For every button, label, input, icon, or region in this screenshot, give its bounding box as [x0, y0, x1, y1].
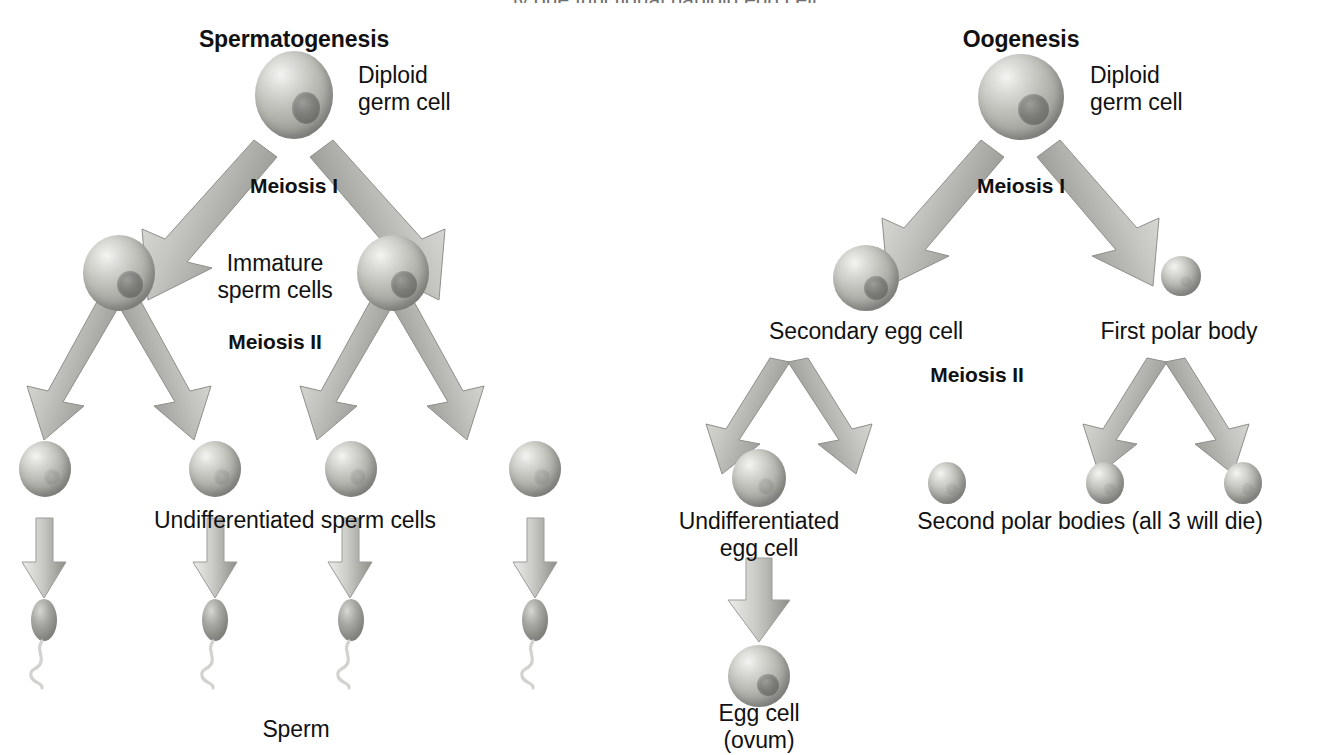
second-polar-body-3 — [1224, 462, 1262, 504]
undifferentiated-sperm-cell-1 — [19, 441, 71, 497]
undifferentiated-egg-cell — [732, 449, 786, 507]
arrow-sperm-differentiate-1 — [22, 518, 66, 598]
egg-cell-label-line1: Egg cell — [718, 700, 799, 726]
arrow-oo-meiosis2-2 — [788, 358, 872, 474]
sperm-cell-1 — [9, 596, 79, 696]
undifferentiated-sperm-cell-4 — [509, 441, 561, 497]
oo-diploid-germ-cell-label-line2: germ cell — [1090, 89, 1182, 115]
arrow-oo-meiosis1-right — [1037, 140, 1159, 286]
sperm-product-label: Sperm — [262, 716, 329, 742]
arrow-sperm-differentiate-4 — [513, 518, 557, 598]
arrow-sperm-meiosis1-left — [142, 140, 277, 300]
sperm-cell-2 — [180, 596, 250, 696]
immature-sperm-cell-left — [83, 235, 155, 311]
immature-sperm-cells-label-line1: Immature — [227, 250, 323, 276]
secondary-egg-cell-label: Secondary egg cell — [769, 318, 963, 344]
first-polar-body — [1161, 256, 1201, 296]
second-polar-body-2 — [1086, 462, 1124, 504]
sperm-meiosis-ii-label: Meiosis II — [228, 330, 322, 354]
egg-cell-label-line2: (ovum) — [724, 727, 795, 753]
undifferentiated-egg-cell-label-line1: Undifferentiated — [679, 508, 839, 534]
cut-off-caption: ...ly one functional haploid egg cell. — [0, 0, 1318, 3]
spermatogenesis-title: Spermatogenesis — [199, 26, 389, 52]
immature-sperm-cells-label-line2: sperm cells — [217, 277, 332, 303]
arrow-sperm-meiosis2-1 — [27, 298, 121, 440]
sperm-cell-4 — [500, 596, 570, 696]
sperm-meiosis-i-label: Meiosis I — [250, 174, 338, 198]
sperm-cell-3 — [316, 596, 386, 696]
arrow-sperm-meiosis2-3 — [300, 298, 394, 440]
arrow-oo-maturation — [728, 558, 790, 642]
sperm-diploid-germ-cell-label-line2: germ cell — [358, 89, 450, 115]
oo-meiosis-ii-label: Meiosis II — [930, 363, 1024, 387]
immature-sperm-cell-right — [357, 235, 429, 311]
sperm-diploid-germ-cell — [255, 51, 333, 139]
arrow-sperm-meiosis2-2 — [117, 298, 211, 440]
undifferentiated-sperm-cell-2 — [189, 441, 241, 497]
egg-cell-ovum — [728, 645, 790, 707]
arrow-oo-meiosis1-left — [882, 140, 1004, 286]
undifferentiated-sperm-cells-label: Undifferentiated sperm cells — [154, 507, 436, 533]
undifferentiated-egg-cell-label-line2: egg cell — [720, 535, 798, 561]
oo-diploid-germ-cell — [978, 54, 1064, 140]
oo-diploid-germ-cell-label-line1: Diploid — [1090, 62, 1160, 88]
arrow-oo-meiosis2-3 — [1083, 358, 1167, 474]
sperm-diploid-germ-cell-label-line1: Diploid — [358, 62, 428, 88]
arrow-oo-meiosis2-4 — [1165, 358, 1249, 474]
meiosis-diagram: ...ly one functional haploid egg cell. — [0, 0, 1318, 755]
arrow-sperm-meiosis2-4 — [390, 298, 484, 440]
second-polar-body-1 — [928, 462, 966, 504]
second-polar-bodies-label: Second polar bodies (all 3 will die) — [917, 508, 1262, 534]
undifferentiated-sperm-cell-3 — [325, 441, 377, 497]
secondary-egg-cell — [833, 245, 899, 311]
first-polar-body-label: First polar body — [1101, 318, 1258, 344]
oo-meiosis-i-label: Meiosis I — [977, 174, 1065, 198]
oogenesis-title: Oogenesis — [963, 26, 1080, 52]
